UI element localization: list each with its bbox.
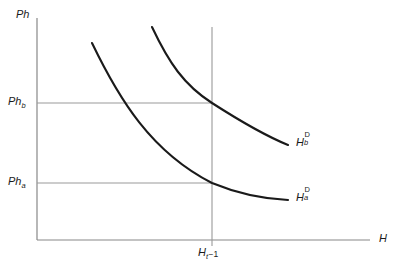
curve-label-demand-b: HbD <box>296 135 310 148</box>
y-tick-label-ph-a: Pha <box>8 176 26 187</box>
x-tick-h-sub: t <box>206 252 208 261</box>
curve-a-label-main: H <box>296 191 304 203</box>
curve-b-label-sub: b <box>304 139 308 147</box>
demand-curve-b <box>152 27 288 145</box>
x-axis-label-text: H <box>379 232 387 244</box>
curve-b-label-main: H <box>296 136 304 148</box>
y-tick-ph-b-main: Ph <box>8 95 21 107</box>
curve-a-label-scripts: aD <box>304 190 310 201</box>
x-tick-h-main: H <box>198 246 206 258</box>
curve-a-label-sup: D <box>304 186 309 194</box>
x-axis-label: H <box>379 233 387 244</box>
y-tick-ph-a-main: Ph <box>8 175 21 187</box>
x-tick-h-suffix: −1 <box>209 249 219 259</box>
y-tick-ph-b-sub: b <box>21 101 25 110</box>
curve-b-label-sup: D <box>304 131 309 139</box>
y-tick-ph-a-sub: a <box>21 181 25 190</box>
y-axis-label-text: Ph <box>16 8 29 20</box>
curve-a-label-sub: a <box>304 194 308 202</box>
curve-b-label-scripts: bD <box>304 135 310 146</box>
economics-diagram-figure: Ph H Phb Pha Ht−1 HbD HaD <box>0 0 405 267</box>
demand-curve-a <box>92 43 288 200</box>
curve-label-demand-a: HaD <box>296 190 310 203</box>
x-tick-label-h-t-minus-1: Ht−1 <box>198 247 218 258</box>
y-tick-label-ph-b: Phb <box>8 96 26 107</box>
plot-canvas <box>0 0 405 267</box>
y-axis-label: Ph <box>16 9 29 20</box>
